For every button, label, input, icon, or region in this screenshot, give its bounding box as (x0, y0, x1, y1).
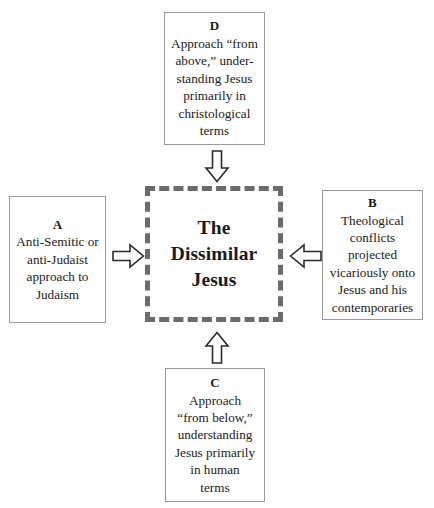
node-d: D Approach “from above,” under- standing… (164, 12, 265, 145)
arrow-down-icon (204, 150, 230, 183)
node-d-text: Approach “from above,” under- standing J… (171, 35, 258, 140)
node-b-text: Theological conflicts projected vicariou… (330, 212, 415, 317)
node-c-text: Approach “from below,” understanding Jes… (175, 392, 255, 497)
node-c-tag: C (210, 374, 220, 392)
arrow-up-icon (204, 331, 230, 364)
arrow-left-icon (289, 243, 322, 269)
node-c: C Approach “from below,” understanding J… (165, 368, 265, 502)
node-d-tag: D (210, 17, 220, 35)
node-a: A Anti-Semitic or anti-Judaist approach … (9, 196, 106, 323)
node-center-label: The Dissimilar Jesus (171, 215, 258, 293)
arrow-right-icon (112, 243, 145, 269)
node-b: B Theological conflicts projected vicari… (322, 190, 423, 320)
node-a-tag: A (53, 216, 63, 234)
node-b-tag: B (368, 194, 377, 212)
diagram-canvas: D Approach “from above,” under- standing… (0, 0, 434, 508)
node-a-text: Anti-Semitic or anti-Judaist approach to… (16, 233, 98, 303)
node-center-dissimilar-jesus: The Dissimilar Jesus (145, 186, 283, 322)
